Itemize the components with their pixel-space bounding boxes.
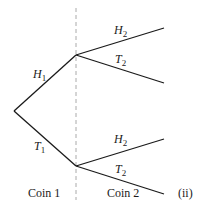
figure-tag: (ii) <box>178 187 193 199</box>
branch-h1 <box>14 55 76 111</box>
label-upper-t2: T2 <box>115 53 126 68</box>
label-upper-h2: H2 <box>114 24 127 39</box>
label-t1: T1 <box>34 140 45 155</box>
label-lower-h2: H2 <box>114 133 127 148</box>
tree-lines <box>0 0 203 207</box>
branch-t1 <box>14 111 76 166</box>
stage-label-coin2: Coin 2 <box>107 187 139 199</box>
stage-label-coin1: Coin 1 <box>28 187 60 199</box>
label-lower-t2: T2 <box>115 163 126 178</box>
label-h1: H1 <box>33 68 46 83</box>
